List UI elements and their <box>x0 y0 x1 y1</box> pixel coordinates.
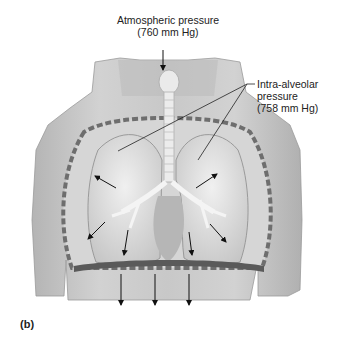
atmospheric-pressure-label: Atmospheric pressure (760 mm Hg) <box>98 14 238 38</box>
panel-label: (b) <box>20 318 34 330</box>
intra-alveolar-label-line1: Intra-alveolar <box>257 78 318 90</box>
atmospheric-label-line1: Atmospheric pressure <box>98 14 238 26</box>
intra-alveolar-label-line3: (758 mm Hg) <box>257 102 318 114</box>
thorax-illustration <box>0 0 338 348</box>
intra-alveolar-label-line2: pressure <box>257 90 318 102</box>
atmospheric-label-line2: (760 mm Hg) <box>98 26 238 38</box>
left-lung <box>176 135 248 266</box>
intra-alveolar-pressure-label: Intra-alveolar pressure (758 mm Hg) <box>257 78 318 114</box>
